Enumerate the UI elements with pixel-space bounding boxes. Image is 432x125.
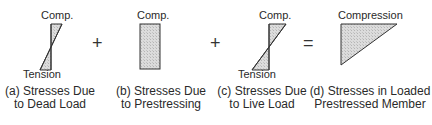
compression-label-d: Compression bbox=[338, 9, 403, 21]
prestressing-stress-diagram bbox=[140, 24, 160, 69]
comp-label-a: Comp. bbox=[41, 9, 73, 21]
dead-load-stress-diagram bbox=[40, 24, 62, 70]
tension-label-a: Tension bbox=[23, 68, 61, 80]
caption-a-line2: to Dead Load bbox=[2, 98, 98, 111]
caption-b-line2: to Prestressing bbox=[111, 98, 211, 111]
caption-a: (a) Stresses Due to Dead Load bbox=[2, 85, 98, 111]
tension-label-c: Tension bbox=[238, 68, 276, 80]
plus-operator-2: + bbox=[210, 34, 221, 52]
caption-c: (c) Stresses Due to Live Load bbox=[214, 85, 310, 111]
plus-operator-1: + bbox=[92, 34, 103, 52]
equals-operator: = bbox=[303, 34, 314, 52]
caption-b: (b) Stresses Due to Prestressing bbox=[111, 85, 211, 111]
combined-stress-diagram bbox=[341, 24, 397, 65]
caption-d-line2: Prestressed Member bbox=[308, 98, 432, 111]
caption-d: (d) Stresses in Loaded Prestressed Membe… bbox=[308, 85, 432, 111]
caption-c-line2: to Live Load bbox=[214, 98, 310, 111]
comp-label-c: Comp. bbox=[259, 9, 291, 21]
live-load-stress-diagram bbox=[252, 24, 286, 70]
comp-label-b: Comp. bbox=[137, 9, 169, 21]
